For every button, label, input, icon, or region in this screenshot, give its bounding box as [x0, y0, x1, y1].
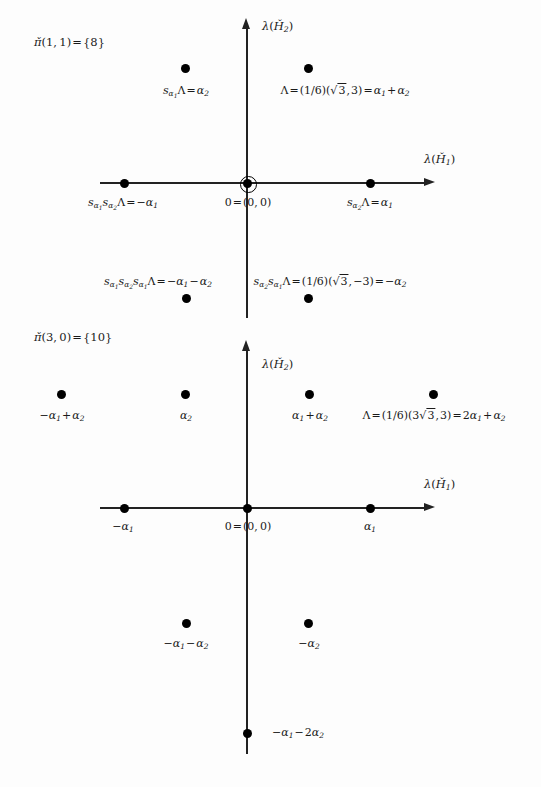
diagram2-label-neg-alpha1-plus-alpha2: −α1 + α2 [39, 410, 84, 424]
diagram1-y-axis [246, 28, 248, 318]
diagram2-weight-dot [429, 390, 438, 399]
diagram1-weight-dot [304, 64, 313, 73]
diagram1-label-origin: 0 = (0, 0) [225, 197, 272, 210]
diagram2-label-origin: 0 = (0, 0) [225, 521, 272, 534]
diagram2-weight-dot [243, 729, 252, 738]
weight-diagram-figure: π̌(1, 1) = {8} λ(Ȟ2) λ(Ȟ1) sα1Λ = α2 Λ… [0, 0, 541, 787]
diagram2-weight-dot [57, 390, 66, 399]
diagram1-label-Lambda: Λ = (1/6)(√3, 3) = α1 + α2 [280, 85, 409, 99]
diagram1-weight-dot [120, 179, 129, 188]
diagram2-label-neg-alpha1-minus-2alpha2: −α1 − 2α2 [272, 727, 324, 741]
diagram1-x-axis [100, 182, 425, 184]
diagram2-weight-dot [305, 390, 314, 399]
diagram1-y-axis-label: λ(Ȟ2) [262, 20, 293, 34]
diagram1-y-axis-arrowhead [242, 18, 250, 29]
diagram2-weight-dot [182, 619, 191, 628]
diagram2-y-axis-label: λ(Ȟ2) [262, 358, 293, 372]
diagram1-label-neg-alpha1: sα1sα2Λ = −α1 [88, 197, 158, 212]
diagram2-label-neg-alpha1: −α1 [112, 521, 133, 535]
diagram2-y-axis-arrowhead [242, 340, 250, 351]
diagram1-weight-dot [182, 294, 191, 303]
diagram2-weight-dot [304, 619, 313, 628]
diagram2-label-alpha2: α2 [180, 410, 192, 424]
diagram2-weight-dot-origin [243, 504, 252, 513]
diagram2-x-axis-arrowhead [424, 503, 435, 511]
diagram2-label-Lambda: Λ = (1/6)(3√3, 3) = 2α1 + α2 [362, 410, 505, 424]
diagram1-label-neg-alpha1-minus-alpha2: sα1sα2sα1Λ = −α1 − α2 [104, 276, 212, 291]
diagram2-x-axis-label: λ(Ȟ1) [424, 478, 455, 492]
diagram2-weight-dot [120, 504, 129, 513]
diagram2-weight-dot [366, 504, 375, 513]
diagram2-label-neg-alpha1-minus-alpha2: −α1 − α2 [163, 638, 208, 652]
diagram2-label-alpha1-plus-alpha2: α1 + α2 [292, 410, 328, 424]
diagram1-weight-dot [181, 64, 190, 73]
diagram2-x-axis [100, 507, 425, 509]
diagram1-label-neg-alpha2: sα2sα1Λ = (1/6)(√3, −3) = −α2 [253, 276, 406, 291]
diagram1-x-axis-arrowhead [424, 178, 435, 186]
diagram1-label-s-alpha1-Lambda: sα1Λ = α2 [163, 85, 209, 100]
diagram1-weight-dot [304, 294, 313, 303]
diagram1-label-alpha1: sα2Λ = α1 [347, 197, 393, 212]
diagram2-weight-dot [181, 390, 190, 399]
diagram1-x-axis-label: λ(Ȟ1) [424, 153, 455, 167]
diagram1-origin-multiplicity-ring [240, 176, 257, 193]
diagram1-weight-dot [366, 179, 375, 188]
diagram1-title: π̌(1, 1) = {8} [34, 36, 105, 49]
diagram2-y-axis [246, 350, 248, 754]
diagram2-label-alpha1: α1 [364, 521, 376, 535]
diagram2-label-neg-alpha2: −α2 [298, 638, 319, 652]
diagram2-title: π̌(3, 0) = {10} [34, 331, 112, 344]
